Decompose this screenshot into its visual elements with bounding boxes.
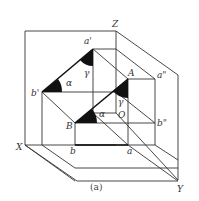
angle-label-gamma-front: γ <box>84 68 90 78</box>
point-label-a: a <box>127 146 132 156</box>
angle-wedges <box>42 49 128 123</box>
alpha-wedge-space <box>75 109 97 123</box>
w-plane-frame <box>116 31 178 180</box>
alpha-wedge-front <box>42 79 62 92</box>
angle-label-gamma-space: γ <box>118 97 124 107</box>
w-lower-diagonal <box>155 145 178 160</box>
a-to-y-diagonal <box>128 145 178 181</box>
h-plane-frame <box>25 145 178 181</box>
point-label-a-double-prime: a" <box>157 70 167 80</box>
point-label-a-prime: a' <box>84 36 92 46</box>
point-label-b: b <box>70 146 76 156</box>
a-prime-to-A <box>93 49 128 79</box>
point-label-b-double-prime: b" <box>157 118 167 128</box>
a-prime-to-a-double-prime <box>116 49 155 79</box>
figure-caption: (a) <box>90 182 102 192</box>
b-prime-to-B <box>42 92 75 123</box>
angle-label-alpha-space: α <box>99 109 105 119</box>
point-label-A: A <box>127 68 135 78</box>
projection-diagram: Z X Y O a' b' a" b" A B a b α γ α γ (a) <box>0 0 199 201</box>
point-label-b-prime: b' <box>31 88 39 98</box>
axis-label-x: X <box>15 142 23 152</box>
angle-label-alpha-front: α <box>66 78 72 88</box>
point-label-B: B <box>65 121 73 131</box>
axis-label-y: Y <box>177 184 184 194</box>
gamma-wedge-space <box>113 79 128 98</box>
axis-label-z: Z <box>111 19 119 29</box>
origin-label: O <box>118 110 126 120</box>
